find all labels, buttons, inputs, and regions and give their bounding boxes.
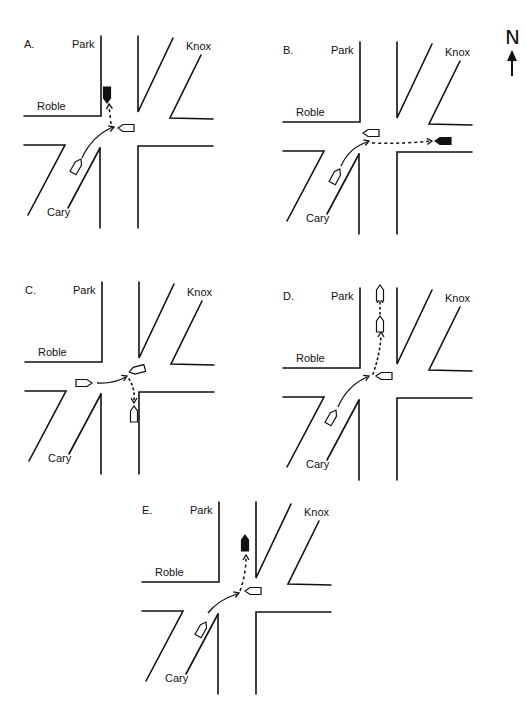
compass: N [505,25,520,76]
street-label-roble: Roble [38,346,67,358]
panel-letter: B. [283,44,293,56]
street-label-cary: Cary [165,672,189,684]
roble-cary-west-curb [142,611,183,681]
park-east-upper-curb [256,502,291,578]
cary-east-curb [186,614,218,674]
start-car [329,167,343,184]
intersection-car [245,588,261,595]
knox-east-curb [170,55,213,119]
street-label-cary: Cary [48,452,72,464]
street-label-cary: Cary [306,458,330,470]
intersection-car [128,365,145,376]
street-label-park: Park [331,44,354,56]
park-east-upper-curb [139,282,174,358]
panel-letter: D. [283,290,294,302]
knox-east-curb [171,301,214,365]
north-arrow-icon [507,50,517,76]
park-east-upper-curb [138,36,173,112]
diagram-panel-a: A.ParkKnoxRobleCary [24,36,213,228]
street-label-roble: Roble [37,100,66,112]
park-east-upper-curb [397,42,432,118]
diagram-panel-b: B.ParkKnoxRobleCary [283,42,472,234]
path-arrowhead [378,332,384,337]
travel-path-dotted [129,379,134,400]
roble-cary-west-curb [283,151,324,221]
street-label-park: Park [73,284,96,296]
street-label-knox: Knox [187,286,213,298]
end-car [131,406,138,422]
travel-path-dotted [373,336,381,374]
mid-car [377,316,384,332]
intersection-diagram-figure: N A.ParkKnoxRobleCaryB.ParkKnoxRobleCary… [0,0,526,727]
cary-east-curb [327,400,359,460]
end-car [242,535,249,551]
park-east-lower-curb [397,398,472,480]
roble-cary-west-curb [24,145,65,215]
knox-east-curb [429,307,472,371]
path-arrowhead [106,104,112,110]
street-label-roble: Roble [155,566,184,578]
street-label-knox: Knox [186,40,212,52]
street-label-knox: Knox [445,46,471,58]
cary-east-curb [69,394,101,454]
start-car [70,157,84,174]
travel-path-solid [208,594,237,613]
vehicle-scenario [76,365,146,422]
travel-path-dashed [240,558,246,591]
park-east-upper-curb [397,288,432,364]
travel-path-solid [338,377,367,407]
park-east-lower-curb [397,152,472,234]
diagram-panel-c: C.ParkKnoxRobleCary [25,282,214,474]
panel-letter: E. [142,504,152,516]
travel-path-solid [97,377,126,383]
knox-east-curb [288,521,331,585]
travel-path-dashed [372,141,431,143]
diagram-panel-e: E.ParkKnoxRobleCary [142,502,331,694]
panel-letter: C. [25,284,36,296]
vehicle-scenario [195,535,261,638]
street-label-cary: Cary [306,212,330,224]
intersection-car [118,125,134,132]
knox-east-curb [429,61,472,125]
panel-letter: A. [24,38,34,50]
cary-east-curb [68,148,100,208]
street-label-park: Park [190,504,213,516]
end-car [104,87,111,103]
diagram-panel-d: D.ParkKnoxRobleCary [283,285,472,480]
end-car [377,285,384,301]
street-label-roble: Roble [296,352,325,364]
street-label-roble: Roble [296,106,325,118]
street-label-knox: Knox [445,292,471,304]
start-car [325,408,339,425]
roble-cary-west-curb [283,397,324,467]
intersection-car [376,373,392,380]
roble-cary-west-curb [25,391,66,461]
end-car [435,138,451,145]
park-east-lower-curb [139,392,214,474]
street-label-cary: Cary [47,206,71,218]
street-label-park: Park [331,290,354,302]
compass-north-label: N [505,25,520,49]
intersection-car [363,130,379,137]
vehicle-scenario [70,87,134,175]
park-east-lower-curb [138,146,213,228]
street-label-park: Park [72,38,95,50]
street-label-knox: Knox [304,506,330,518]
travel-path-dashed [109,106,111,124]
start-car [76,380,92,387]
park-east-lower-curb [256,612,331,694]
